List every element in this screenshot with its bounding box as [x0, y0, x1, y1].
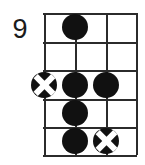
string-line-4	[136, 13, 138, 155]
chord-diagram: 9	[0, 0, 145, 165]
marker-string1-fret3[interactable]	[31, 72, 57, 98]
marker-string2-fret4[interactable]	[62, 100, 88, 126]
marker-string3-fret5[interactable]	[93, 128, 119, 154]
fret-number-label: 9	[6, 14, 34, 44]
marker-string2-fret5[interactable]	[62, 128, 88, 154]
marker-string2-fret3[interactable]	[62, 72, 88, 98]
fret-line-2	[43, 70, 137, 72]
fret-line-1	[43, 42, 137, 44]
marker-string2-fret1[interactable]	[62, 14, 88, 40]
fretboard-grid	[44, 13, 136, 155]
fret-line-3	[43, 99, 137, 101]
fret-line-0	[43, 13, 137, 15]
marker-string3-fret3[interactable]	[93, 72, 119, 98]
x-icon	[31, 72, 57, 98]
x-icon	[93, 128, 119, 154]
fret-line-5	[43, 155, 137, 157]
fret-line-4	[43, 127, 137, 129]
